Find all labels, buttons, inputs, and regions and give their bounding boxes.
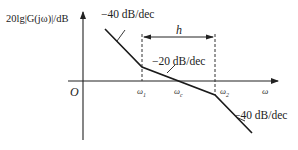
slope-label-3: −40 dB/dec — [234, 110, 287, 122]
tick-omega-c: ωc — [174, 87, 183, 98]
bode-diagram: 20lg|G(jω)|/dB −40 dB/dec h −20 dB/dec −… — [0, 0, 298, 150]
tick-omega-2-sub: 2 — [226, 92, 229, 98]
slope-label-1: −40 dB/dec — [101, 9, 154, 21]
bandwidth-label: h — [176, 24, 182, 36]
slope-label-2: −20 dB/dec — [152, 56, 205, 68]
origin-label: O — [70, 86, 79, 98]
x-axis-label: ω — [262, 87, 268, 96]
tick-omega-c-sub: c — [180, 92, 183, 98]
tick-omega-1: ω1 — [137, 87, 146, 98]
y-axis-label: 20lg|G(jω)|/dB — [6, 14, 68, 25]
tick-omega-1-sub: 1 — [143, 92, 146, 98]
tick-omega-2: ω2 — [220, 87, 229, 98]
leader-slope-1 — [117, 30, 125, 41]
